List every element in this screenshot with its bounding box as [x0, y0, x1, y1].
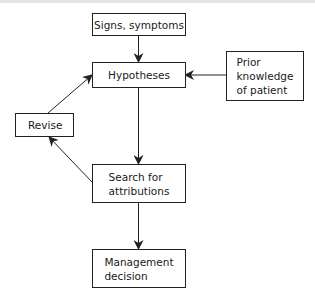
edge-revise-hypotheses — [48, 75, 92, 113]
node-label: Hypotheses — [108, 68, 170, 82]
node-hypotheses: Hypotheses — [92, 62, 186, 88]
node-management-decision: Management decision — [92, 249, 186, 288]
node-label: Revise — [28, 118, 62, 132]
node-signs-symptoms: Signs, symptoms — [92, 13, 186, 36]
node-label: Management decision — [104, 255, 173, 283]
node-prior-knowledge: Prior knowledge of patient — [226, 51, 304, 101]
node-search-attributions: Search for attributions — [92, 164, 186, 203]
node-revise: Revise — [15, 113, 74, 137]
node-label: Prior knowledge of patient — [237, 55, 294, 97]
node-label: Search for attributions — [109, 170, 170, 198]
edge-search-revise — [49, 137, 92, 182]
node-label: Signs, symptoms — [94, 18, 184, 32]
